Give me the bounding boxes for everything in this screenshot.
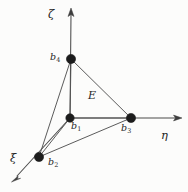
node-b4[interactable] [66, 54, 75, 63]
eta-axis-label: η [161, 130, 168, 142]
xi-axis-label: ξ [10, 153, 16, 165]
edge-b4-b2 [39, 59, 71, 157]
edge-b1-b2 [39, 118, 70, 157]
node-label-b3-sub: 3 [127, 127, 131, 135]
node-label-b2-sub: 2 [54, 161, 58, 169]
region-label-E: E [88, 90, 96, 101]
node-label-b1-sub: 1 [77, 125, 81, 133]
node-label-b2: b2 [48, 157, 58, 167]
node-b2[interactable] [34, 152, 43, 161]
tetrahedron-edges-group [39, 59, 131, 157]
zeta-axis-label: ζ [48, 9, 54, 21]
xi-axis-arrowhead [12, 176, 21, 182]
edge-b4-b3 [71, 59, 131, 118]
node-label-b4: b4 [50, 52, 60, 62]
node-label-b3: b3 [121, 123, 131, 133]
node-label-b4-sub: 4 [56, 56, 60, 64]
node-label-b1: b1 [71, 121, 81, 131]
node-b3[interactable] [126, 113, 135, 122]
tetrahedron-figure: ζ η ξ b1 b2 b3 b4 E [0, 0, 188, 192]
